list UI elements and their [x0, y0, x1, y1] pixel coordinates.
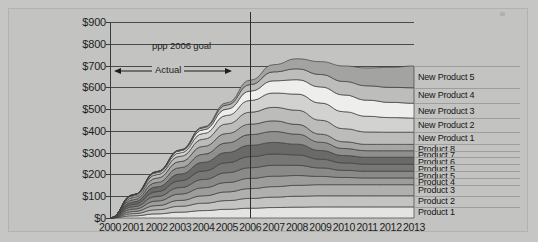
x-axis-tick-label: 2010	[333, 221, 355, 233]
y-axis-tick-mark	[106, 174, 110, 175]
x-axis-tick-label: 2001	[122, 221, 144, 233]
legend-item-label: Product 3	[414, 186, 455, 195]
legend-item: New Product 4	[414, 88, 520, 103]
legend-item-label: New Product 5	[414, 73, 474, 82]
legend-item: New Product 2	[414, 118, 520, 132]
legend-item: Product 1	[414, 207, 520, 218]
x-axis: 2000200120022003200420052006200720082009…	[110, 221, 414, 237]
goal-marker-label: ppp 2006 goal	[152, 40, 211, 51]
legend-item-label: Product 1	[414, 208, 455, 217]
y-axis-tick-label: $700	[82, 60, 106, 72]
y-axis-tick-label: $100	[82, 190, 106, 202]
y-axis-tick-label: $300	[82, 147, 106, 159]
legend-item: New Product 3	[414, 103, 520, 118]
y-axis-tick-label: $400	[82, 125, 106, 137]
goal-marker-line	[250, 12, 251, 218]
y-axis-tick-mark	[106, 66, 110, 67]
x-axis-tick-label: 2009	[309, 221, 331, 233]
legend-item-label: New Product 4	[414, 91, 474, 100]
legend-item-label: New Product 3	[414, 107, 474, 116]
x-axis-tick-label: 2008	[286, 221, 308, 233]
y-axis-tick-mark	[106, 131, 110, 132]
x-axis-tick-label: 2003	[169, 221, 191, 233]
legend-item: New Product 5	[414, 66, 520, 88]
legend-item: Product 2	[414, 196, 520, 207]
y-axis-tick-label: $600	[82, 81, 106, 93]
y-axis-tick-mark	[106, 218, 110, 219]
actual-label: Actual	[152, 64, 184, 75]
y-axis-tick-label: $200	[82, 168, 106, 180]
x-axis-tick-label: 2011	[357, 221, 378, 233]
y-axis: $0$100$200$300$400$500$600$700$800$900	[56, 22, 106, 218]
chart-screenshot: $0$100$200$300$400$500$600$700$800$900 p…	[0, 0, 538, 242]
legend-item-label: Product 2	[414, 197, 455, 206]
y-axis-tick-mark	[106, 44, 110, 45]
legend: New Product 5New Product 4New Product 3N…	[414, 22, 520, 218]
scan-artifact-speck	[500, 12, 505, 16]
y-axis-tick-label: $800	[82, 38, 106, 50]
y-axis-tick-mark	[106, 87, 110, 88]
y-axis-tick-label: $900	[82, 16, 106, 28]
y-axis-tick-mark	[106, 22, 110, 23]
x-axis-tick-label: 2006	[239, 221, 261, 233]
legend-item: Product 3	[414, 185, 520, 196]
actual-span-annotation: Actual	[114, 64, 232, 78]
y-axis-tick-label: $500	[82, 103, 106, 115]
x-axis-tick-label: 2005	[216, 221, 238, 233]
x-axis-tick-label: 2002	[146, 221, 168, 233]
y-axis-tick-mark	[106, 196, 110, 197]
y-axis-tick-mark	[106, 109, 110, 110]
y-axis-tick-mark	[106, 153, 110, 154]
x-axis-tick-label: 2000	[99, 221, 121, 233]
stacked-area-series	[110, 22, 414, 218]
x-axis-tick-label: 2007	[263, 221, 285, 233]
x-axis-tick-label: 2013	[403, 221, 425, 233]
x-axis-tick-label: 2012	[380, 221, 402, 233]
legend-item-label: New Product 1	[414, 134, 474, 143]
legend-item-label: New Product 2	[414, 121, 474, 130]
x-axis-tick-label: 2004	[192, 221, 214, 233]
legend-item: New Product 1	[414, 132, 520, 144]
plot-area	[110, 22, 414, 218]
